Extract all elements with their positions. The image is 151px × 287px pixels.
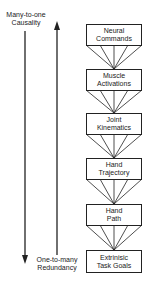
- top-label-line1: Many-to-one: [6, 11, 46, 19]
- box-line1: Hand: [106, 161, 123, 169]
- muscle-activations-box: Muscle Activations: [86, 69, 142, 91]
- downward-arrow: [22, 31, 28, 264]
- hand-trajectory-box: Hand Trajectory: [86, 158, 142, 180]
- box-line2: Trajectory: [99, 169, 130, 177]
- box-line2: Kinematics: [97, 124, 131, 132]
- upward-arrow: [54, 21, 60, 255]
- hand-path-box: Hand Path: [86, 204, 142, 226]
- box-line1: Extrinisic: [100, 254, 128, 262]
- joint-kinematics-box: Joint Kinematics: [86, 113, 142, 135]
- top-label-line2: Causality: [6, 19, 46, 27]
- box-line2: Path: [107, 215, 121, 223]
- box-line1: Muscle: [103, 72, 125, 80]
- one-to-many-redundancy-label: One-to-many Redundancy: [34, 256, 80, 272]
- many-to-one-causality-label: Many-to-one Causality: [6, 11, 46, 27]
- box-line2: Task Goals: [97, 262, 132, 270]
- neural-commands-box: Neural Commands: [86, 24, 142, 46]
- box-line1: Neural: [104, 27, 125, 35]
- box-line2: Activations: [97, 80, 131, 88]
- box-line1: Joint: [107, 116, 122, 124]
- bottom-label-line2: Redundancy: [34, 264, 80, 272]
- box-line1: Hand: [106, 207, 123, 215]
- extrinsic-task-goals-box: Extrinisic Task Goals: [86, 250, 142, 273]
- bottom-label-line1: One-to-many: [34, 256, 80, 264]
- box-line2: Commands: [96, 35, 132, 43]
